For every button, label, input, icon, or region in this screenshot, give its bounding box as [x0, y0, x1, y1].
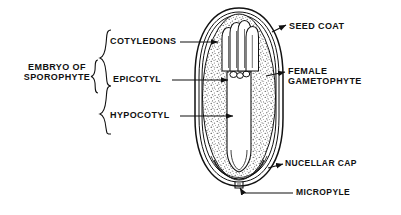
leader-seed-coat — [272, 25, 286, 32]
hypocotyl-radicle — [227, 72, 251, 172]
label-micropyle: MICROPYLE — [296, 188, 350, 198]
label-hypocotyl: HYPOCOTYL — [110, 110, 170, 120]
label-seed-coat: SEED COAT — [289, 21, 344, 31]
label-female-gametophyte: FEMALE GAMETOPHYTE — [288, 66, 362, 86]
leader-micropyle — [240, 188, 293, 193]
epicotyl-cell-2 — [237, 73, 244, 79]
label-embryo-of-sporophyte: EMBRYO OF SPOROPHYTE — [18, 62, 96, 82]
seed-body — [195, 8, 283, 188]
label-epicotyl: EPICOTYL — [113, 74, 161, 84]
epicotyl-cell-3 — [243, 71, 250, 77]
label-nucellar-cap: NUCELLAR CAP — [285, 159, 357, 169]
epicotyl-cell-1 — [230, 72, 237, 78]
cotyledons-group — [222, 21, 259, 72]
label-cotyledons: COTYLEDONS — [110, 36, 177, 46]
seed-anatomy-diagram — [0, 0, 401, 215]
